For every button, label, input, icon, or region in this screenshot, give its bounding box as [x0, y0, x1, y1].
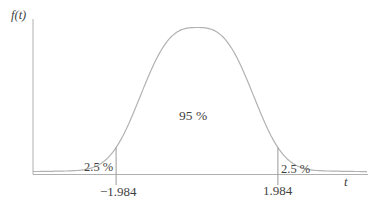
critical-value-lines	[116, 148, 278, 185]
distribution-figure: f(t) 95 % 2.5 % 2.5 % −1.984 1.984 t	[0, 0, 373, 211]
right-critical-tick-label: 1.984	[263, 184, 292, 197]
right-tail-label: 2.5 %	[281, 163, 310, 176]
y-axis-label: f(t)	[11, 9, 26, 22]
left-critical-tick-label: −1.984	[100, 185, 137, 198]
center-region-label: 95 %	[179, 109, 207, 123]
distribution-curve	[33, 28, 367, 172]
x-axis-label: t	[344, 175, 348, 188]
left-tail-label: 2.5 %	[84, 161, 113, 174]
plot-canvas	[0, 0, 373, 211]
